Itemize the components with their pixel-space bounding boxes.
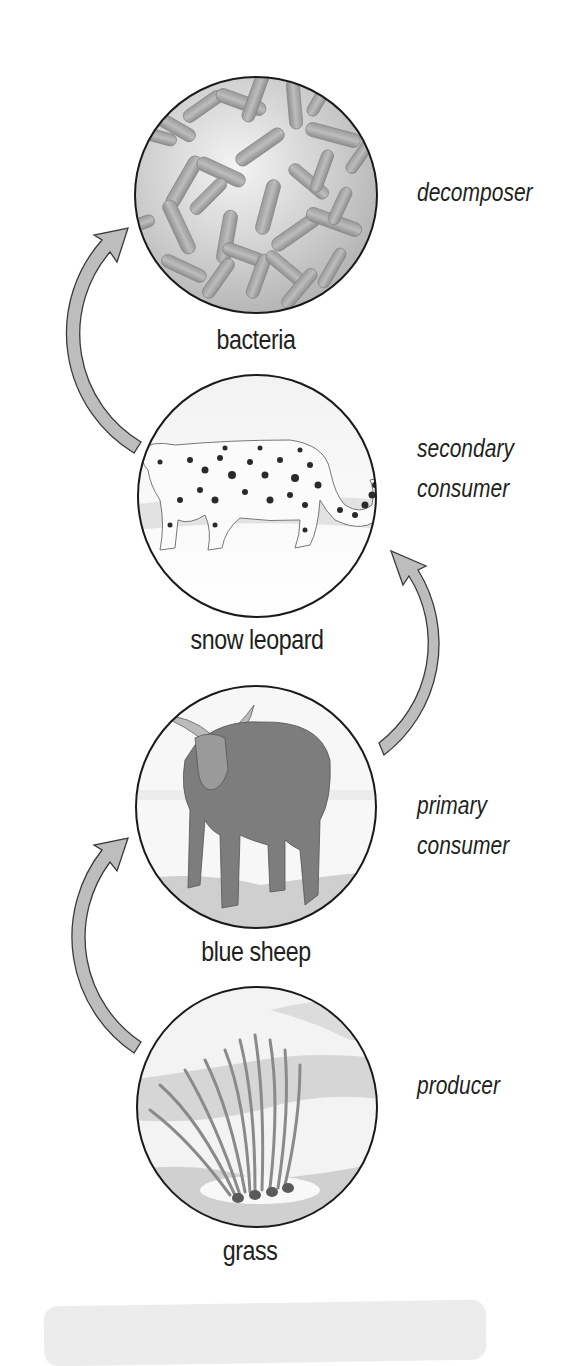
role-label-decomposer: decomposer (417, 172, 533, 212)
footer-panel (44, 1300, 487, 1366)
role-label-producer: producer (417, 1065, 500, 1105)
organism-label-bacteria: bacteria (144, 325, 368, 356)
snow-leopard-icon (130, 375, 390, 617)
arrow-snow-leopard-to-bacteria (66, 228, 141, 453)
arrow-grass-to-blue-sheep (72, 838, 141, 1053)
grass-icon (130, 987, 390, 1230)
role-label-secondary: secondary (417, 428, 514, 468)
organism-label-blue-sheep: blue sheep (144, 937, 368, 968)
role-label-secondary-consumer: consumer (417, 468, 509, 508)
organism-label-snow-leopard: snow leopard (145, 625, 369, 656)
bacteria-icon (124, 69, 377, 313)
role-label-primary: primary (417, 785, 487, 825)
organism-label-grass: grass (138, 1236, 362, 1267)
blue-sheep-icon (130, 686, 390, 935)
role-label-primary-consumer: consumer (417, 825, 509, 865)
arrow-blue-sheep-to-snow-leopard (379, 551, 439, 755)
